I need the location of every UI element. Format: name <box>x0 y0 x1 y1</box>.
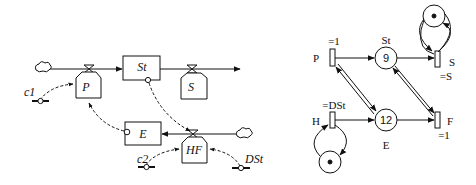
link-c1-p <box>40 84 73 100</box>
connector-st <box>145 77 150 82</box>
stock-e-label: E <box>138 127 147 141</box>
transition-f-label: F <box>447 115 453 127</box>
flow-p-label: P <box>81 80 90 94</box>
transition-h-rate: =DSt <box>322 99 345 111</box>
constant-c2-label: c2 <box>137 152 148 166</box>
transition-f <box>435 112 440 128</box>
transition-f-rate: =1 <box>438 129 450 141</box>
transition-p-label: P <box>313 52 319 64</box>
transition-s <box>435 51 440 67</box>
transition-h-label: H <box>312 115 320 127</box>
constant-c1-icon <box>32 98 49 103</box>
link-c2-hf <box>146 149 179 165</box>
constant-c1-label: c1 <box>24 85 35 99</box>
place-e-tokens: 12 <box>380 114 392 126</box>
transition-s-rate: =S <box>440 70 452 82</box>
constant-dst-icon <box>232 165 250 170</box>
flow-s-label: S <box>188 80 194 94</box>
place-st-tokens: 9 <box>383 52 389 64</box>
token-dot-icon <box>432 14 436 18</box>
transition-p-rate: =1 <box>328 35 340 47</box>
arc-h-loop <box>335 125 346 155</box>
link-e-p <box>89 103 124 131</box>
place-e-label: E <box>383 139 390 151</box>
connector-e <box>124 129 130 135</box>
flow-hf-label: HF <box>185 143 203 157</box>
place-st-label: St <box>381 34 390 46</box>
cloud-source-icon <box>35 62 51 72</box>
arc-st-f <box>395 66 434 113</box>
flow-s <box>181 73 207 99</box>
transition-s-label: S <box>449 56 455 68</box>
token-dot-icon <box>328 160 332 164</box>
arc-f-st <box>393 68 433 116</box>
diagram-canvas: P St S E HF c1 c2 DSt <box>0 0 476 185</box>
transition-p <box>330 49 335 66</box>
link-dst-hf <box>210 149 240 166</box>
transition-h <box>330 112 335 128</box>
cloud-source-hf-icon <box>236 128 252 138</box>
constant-dst-label: DSt <box>244 152 264 166</box>
stock-st-label: St <box>137 60 147 74</box>
